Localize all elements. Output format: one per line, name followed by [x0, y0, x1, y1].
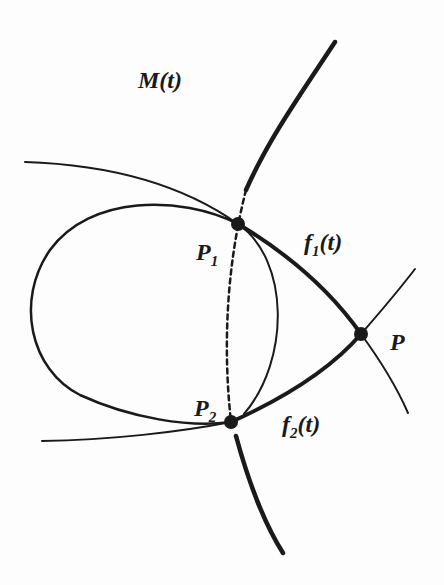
diagram-canvas: M(t) P1 f1(t) P P2 f2(t)	[0, 0, 444, 585]
label-p1-sub: 1	[211, 253, 219, 269]
label-f2-arg: (t)	[298, 411, 321, 437]
point-p	[354, 327, 368, 341]
label-f2-base: f	[282, 411, 290, 437]
point-p2	[224, 415, 238, 429]
label-f2: f2(t)	[282, 412, 320, 436]
point-p1	[231, 217, 245, 231]
label-p2: P2	[194, 396, 216, 420]
label-p2-base: P	[194, 395, 209, 421]
label-f1-sub: 1	[312, 243, 320, 259]
label-f2-sub: 2	[290, 425, 298, 441]
label-m: M(t)	[138, 68, 182, 92]
diagram-drawing	[0, 0, 444, 585]
label-p: P	[390, 330, 405, 354]
loop-outer	[31, 205, 238, 424]
curve-f2	[231, 334, 361, 422]
loop-inner	[238, 224, 278, 414]
curve-m-upper	[246, 42, 335, 190]
label-f1: f1(t)	[304, 230, 342, 254]
curve-m-lower	[236, 436, 283, 553]
label-p1: P1	[196, 240, 218, 264]
label-p1-base: P	[196, 239, 211, 265]
curve-through-p	[361, 269, 415, 413]
label-p2-sub: 2	[209, 409, 217, 425]
label-f1-arg: (t)	[320, 229, 343, 255]
label-f1-base: f	[304, 229, 312, 255]
tangent-curve-upper	[25, 162, 238, 224]
